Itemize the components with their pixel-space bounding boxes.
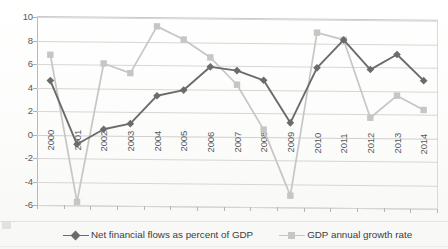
data-point-marker <box>260 126 266 132</box>
data-point-marker <box>287 192 293 198</box>
data-point-marker <box>154 23 160 29</box>
legend-entry-gdp-growth-rate[interactable]: GDP annual growth rate <box>279 230 412 240</box>
data-point-marker <box>127 70 133 76</box>
data-point-marker <box>47 52 53 58</box>
data-point-marker <box>73 140 81 148</box>
legend-key-marker <box>288 232 295 239</box>
data-point-marker <box>74 199 80 205</box>
chart-legend: Net financial flows as percent of GDPGDP… <box>37 224 438 246</box>
data-point-marker <box>314 29 320 35</box>
data-point-marker <box>207 54 213 60</box>
chart-plot-lines <box>0 0 448 249</box>
data-point-marker <box>100 60 106 66</box>
data-point-marker <box>367 115 373 121</box>
data-point-marker <box>233 67 241 75</box>
chart-screenshot: 1086420-2-4-6 20002001200220032004200520… <box>0 0 448 249</box>
legend-divider-bottom <box>0 246 448 247</box>
data-point-marker <box>47 77 55 85</box>
diamond-marker-icon <box>63 230 89 240</box>
legend-entry-net-financial-flows[interactable]: Net financial flows as percent of GDP <box>63 230 253 240</box>
legend-divider-top <box>0 221 448 222</box>
data-point-marker <box>420 107 426 113</box>
data-point-marker <box>180 36 186 42</box>
legend-label: GDP annual growth rate <box>307 230 412 240</box>
data-point-marker <box>100 125 108 133</box>
legend-label: Net financial flows as percent of GDP <box>91 230 253 240</box>
scan-artifact <box>2 221 11 229</box>
legend-key-marker <box>70 230 80 240</box>
data-point-marker <box>234 82 240 88</box>
series-line-gdp-growth-rate <box>50 26 423 201</box>
square-marker-icon <box>279 230 305 240</box>
data-point-marker <box>394 92 400 98</box>
